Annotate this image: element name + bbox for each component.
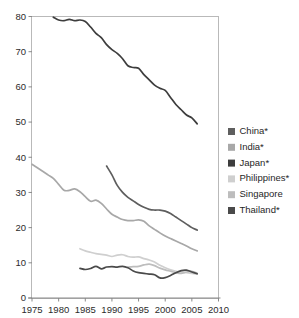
legend-swatch [228, 144, 235, 151]
chart-canvas: 01020304050607080 1975198019851990199520… [0, 0, 299, 318]
y-tick-label: 20 [15, 222, 26, 233]
y-tick-label: 70 [15, 46, 26, 57]
legend-swatch [228, 207, 235, 214]
series-line-japan [53, 17, 197, 124]
y-axis-ticks: 01020304050607080 [15, 11, 32, 304]
x-axis-ticks: 19751980198519901995200020052010 [21, 298, 229, 315]
y-tick-label: 50 [15, 116, 26, 127]
legend-swatch [228, 191, 235, 198]
data-series-group [32, 17, 197, 278]
line-chart-figure: 01020304050607080 1975198019851990199520… [0, 0, 299, 318]
y-tick-label: 0 [21, 292, 26, 303]
legend-label-thailand: Thailand* [240, 204, 280, 215]
legend-label-japan: Japan* [240, 157, 270, 168]
chart-legend: China*India*Japan*Philippines*SingaporeT… [228, 125, 289, 215]
x-tick-label: 1990 [101, 304, 122, 315]
x-tick-label: 1995 [128, 304, 149, 315]
legend-swatch [228, 160, 235, 167]
y-tick-label: 60 [15, 81, 26, 92]
y-tick-label: 30 [15, 187, 26, 198]
x-tick-label: 1975 [21, 304, 42, 315]
x-tick-label: 2000 [155, 304, 176, 315]
y-tick-label: 40 [15, 152, 26, 163]
x-tick-label: 2005 [181, 304, 202, 315]
legend-swatch [228, 128, 235, 135]
legend-label-philippines: Philippines* [240, 172, 290, 183]
legend-label-singapore: Singapore [240, 188, 283, 199]
x-tick-label: 2010 [208, 304, 229, 315]
y-tick-label: 80 [15, 11, 26, 22]
legend-label-india: India* [240, 141, 265, 152]
series-line-china [107, 166, 198, 230]
legend-label-china: China* [240, 125, 269, 136]
y-tick-label: 10 [15, 257, 26, 268]
series-line-india [32, 164, 197, 251]
x-tick-label: 1985 [75, 304, 96, 315]
x-tick-label: 1980 [48, 304, 69, 315]
legend-swatch [228, 175, 235, 182]
